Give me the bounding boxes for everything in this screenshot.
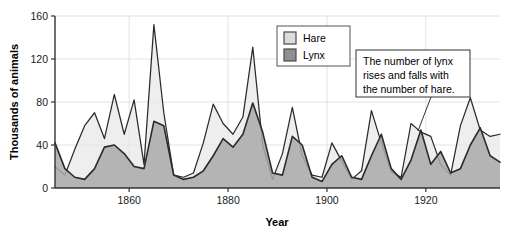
y-tick-label: 120 bbox=[30, 53, 48, 65]
x-axis-title: Year bbox=[265, 216, 289, 228]
annotation-line-1: The number of lynx bbox=[363, 55, 454, 67]
y-tick-label: 40 bbox=[36, 139, 48, 151]
y-tick-label: 80 bbox=[36, 96, 48, 108]
legend-label-lynx: Lynx bbox=[303, 49, 326, 61]
x-tick-label: 1880 bbox=[216, 194, 240, 206]
legend-swatch-lynx bbox=[284, 49, 296, 61]
legend-label-hare: Hare bbox=[303, 32, 326, 44]
y-tick-label: 0 bbox=[42, 182, 48, 194]
legend-swatch-hare bbox=[284, 32, 296, 44]
population-chart: 04080120160 1860188019001920 Thousands o… bbox=[0, 0, 507, 238]
legend: Hare Lynx bbox=[277, 26, 350, 66]
x-tick-label: 1920 bbox=[414, 194, 438, 206]
y-tick-label: 160 bbox=[30, 10, 48, 22]
x-tick-label: 1860 bbox=[117, 194, 141, 206]
x-tick-label: 1900 bbox=[315, 194, 339, 206]
annotation-line-2: rises and falls with bbox=[363, 69, 449, 81]
y-axis-title: Thousands of animals bbox=[8, 44, 20, 160]
annotation-line-3: the number of hare. bbox=[363, 83, 455, 95]
chart-container: 04080120160 1860188019001920 Thousands o… bbox=[0, 0, 507, 238]
